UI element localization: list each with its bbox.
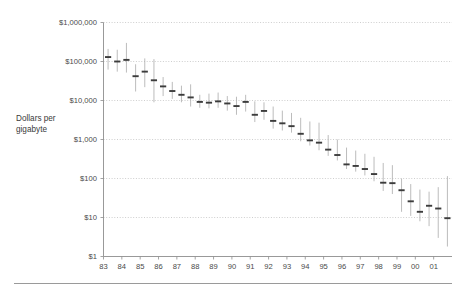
data-marker bbox=[178, 86, 184, 103]
x-tick-label-15: 98 bbox=[374, 262, 382, 271]
data-marker bbox=[151, 59, 157, 102]
data-marker bbox=[426, 192, 432, 226]
x-tick-label-13: 96 bbox=[338, 262, 346, 271]
data-marker bbox=[417, 190, 423, 222]
y-axis-title-line-1: Dollars per bbox=[16, 114, 56, 123]
data-marker bbox=[224, 96, 230, 111]
data-marker bbox=[380, 163, 386, 191]
y-axis-title: Dollars pergigabyte bbox=[16, 114, 56, 134]
y-tick-label-6: $1 bbox=[89, 252, 97, 261]
data-marker bbox=[325, 135, 331, 156]
y-tick-label-0: $1,000,000 bbox=[59, 18, 97, 27]
data-markers-group bbox=[105, 43, 451, 247]
y-tick-label-3: $1,000 bbox=[74, 135, 97, 144]
data-marker bbox=[206, 94, 212, 109]
data-marker bbox=[188, 84, 194, 106]
x-tick-label-14: 97 bbox=[356, 262, 364, 271]
y-tick-label-1: $100,000 bbox=[65, 57, 97, 66]
data-marker bbox=[398, 179, 404, 212]
data-marker bbox=[435, 187, 441, 238]
y-tick-label-2: $10,000 bbox=[70, 96, 97, 105]
y-axis-tick-labels: $1,000,000$100,000$10,000$1,000$100$10$1 bbox=[59, 18, 97, 261]
x-tick-label-1: 84 bbox=[118, 262, 126, 271]
data-marker bbox=[132, 64, 138, 91]
chart-figure: $1,000,000$100,000$10,000$1,000$100$10$1… bbox=[0, 0, 465, 292]
x-axis-tick-marks bbox=[104, 257, 434, 260]
x-tick-label-18: 01 bbox=[429, 262, 437, 271]
x-tick-label-2: 85 bbox=[136, 262, 144, 271]
data-marker bbox=[371, 157, 377, 181]
data-marker bbox=[261, 102, 267, 120]
data-marker bbox=[408, 184, 414, 216]
cost-per-gigabyte-chart: $1,000,000$100,000$10,000$1,000$100$10$1… bbox=[0, 0, 465, 292]
data-marker bbox=[160, 77, 166, 96]
x-tick-label-7: 90 bbox=[228, 262, 236, 271]
x-tick-label-4: 87 bbox=[173, 262, 181, 271]
data-marker bbox=[243, 95, 249, 112]
x-tick-label-0: 83 bbox=[99, 262, 107, 271]
data-marker bbox=[142, 58, 148, 87]
data-marker bbox=[233, 97, 239, 115]
data-marker bbox=[362, 154, 368, 176]
data-marker bbox=[343, 148, 349, 169]
data-marker bbox=[279, 111, 285, 131]
data-marker bbox=[169, 82, 175, 99]
y-axis-title-line-2: gigabyte bbox=[16, 125, 47, 134]
data-marker bbox=[307, 121, 313, 145]
x-tick-label-3: 86 bbox=[154, 262, 162, 271]
data-marker bbox=[334, 140, 340, 161]
data-marker bbox=[389, 165, 395, 194]
data-marker bbox=[444, 176, 450, 246]
data-marker bbox=[353, 151, 359, 172]
x-tick-label-8: 91 bbox=[246, 262, 254, 271]
data-marker bbox=[252, 101, 258, 122]
x-tick-label-9: 92 bbox=[264, 262, 272, 271]
y-axis-title-text: Dollars pergigabyte bbox=[16, 114, 56, 134]
data-marker bbox=[197, 95, 203, 108]
x-tick-label-10: 93 bbox=[283, 262, 291, 271]
x-tick-label-17: 00 bbox=[411, 262, 419, 271]
y-tick-label-4: $100 bbox=[80, 174, 97, 183]
x-tick-label-11: 94 bbox=[301, 262, 309, 271]
y-tick-label-5: $10 bbox=[84, 213, 97, 222]
gridlines-group bbox=[104, 23, 453, 218]
x-tick-label-6: 89 bbox=[209, 262, 217, 271]
x-axis-tick-labels: 83848586878889909192939495969798990001 bbox=[99, 262, 438, 271]
data-marker bbox=[288, 113, 294, 133]
data-marker bbox=[114, 50, 120, 72]
x-tick-label-16: 99 bbox=[393, 262, 401, 271]
x-tick-label-5: 88 bbox=[191, 262, 199, 271]
data-marker bbox=[270, 107, 276, 129]
data-marker bbox=[123, 43, 129, 73]
data-marker bbox=[105, 49, 111, 70]
data-marker bbox=[298, 118, 304, 141]
data-marker bbox=[316, 123, 322, 151]
x-tick-label-12: 95 bbox=[319, 262, 327, 271]
